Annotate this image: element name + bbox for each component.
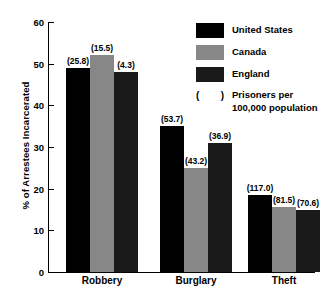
y-tick-label: 30 [33,142,44,153]
bar-value-label: (81.5) [273,195,295,205]
bar: (70.6) [296,210,320,273]
legend-item: England [196,67,329,82]
bar-value-label: (117.0) [247,183,273,193]
bar-value-label: (43.2) [185,156,207,166]
y-tick-label: 50 [33,58,44,69]
y-tick-mark [49,64,54,65]
y-tick-label: 60 [33,17,44,28]
legend-label: Canada [232,45,266,59]
bar: (25.8) [66,68,90,272]
legend-paren-symbol: ( ) [196,89,224,102]
legend-swatch [196,67,224,82]
y-tick-mark [49,105,54,106]
paren-close: ) [221,89,224,102]
x-axis-line [48,272,315,273]
y-tick-mark [49,272,54,273]
bar: (4.3) [114,72,138,272]
legend-note: ( ) Prisoners per 100,000 population [196,89,329,114]
bar: (53.7) [160,126,184,272]
legend-note-text: Prisoners per 100,000 population [232,89,318,114]
y-tick-mark [49,22,54,23]
legend-label: England [232,67,269,81]
y-tick-label: 40 [33,100,44,111]
y-tick-label: 0 [39,267,44,278]
legend-note-line-1: Prisoners per [232,89,318,102]
y-axis-title: % of Arrestees Incarcerated [20,46,31,246]
y-tick-mark [49,147,54,148]
y-tick-label: 10 [33,225,44,236]
legend-swatch [196,45,224,60]
y-tick-mark [49,189,54,190]
bar-value-label: (15.5) [91,43,113,53]
x-axis-label: Burglary [175,275,216,286]
bar-value-label: (53.7) [161,114,183,124]
x-axis-label: Robbery [82,275,123,286]
bar: (43.2) [184,168,208,272]
legend-label: United States [232,23,293,37]
legend-swatch [196,23,224,38]
legend-series-list: United StatesCanadaEngland [196,23,329,82]
legend-item: Canada [196,45,329,60]
paren-open: ( [196,89,199,102]
y-tick-mark [49,230,54,231]
bar: (81.5) [272,207,296,272]
x-axis-label: Theft [272,275,296,286]
bar-value-label: (25.8) [67,56,89,66]
y-tick-label: 20 [33,183,44,194]
legend-item: United States [196,23,329,38]
bar: (15.5) [90,55,114,272]
legend-note-line-2: 100,000 population [232,102,318,115]
bar: (117.0) [248,195,272,272]
bar-value-label: (36.9) [209,131,231,141]
bar-value-label: (4.3) [117,60,134,70]
bar-chart: % of Arrestees Incarcerated 010203040506… [0,0,329,300]
chart-legend: United StatesCanadaEngland ( ) Prisoners… [196,23,329,114]
bar-value-label: (70.6) [297,198,319,208]
bar: (36.9) [208,143,232,272]
